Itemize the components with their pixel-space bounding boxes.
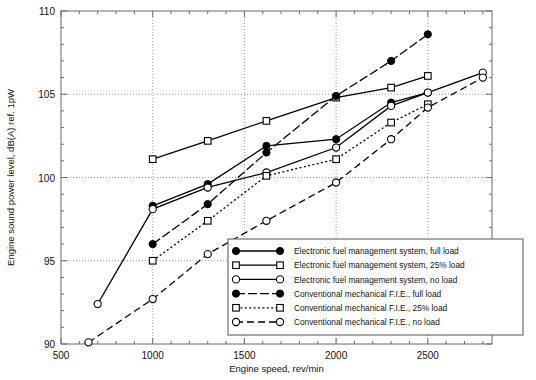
x-tick-label: 2500 (417, 350, 440, 361)
data-point (85, 339, 92, 346)
data-point (94, 300, 101, 307)
data-point (204, 138, 211, 145)
x-tick-label: 2000 (325, 350, 348, 361)
data-point (277, 305, 284, 312)
data-point (388, 136, 395, 143)
y-tick-label: 100 (38, 173, 55, 184)
data-point (333, 92, 340, 99)
data-point (388, 119, 395, 126)
y-axis-title: Engine sound power level, dB(A) ref. 1pW (5, 89, 16, 266)
x-axis-title: Engine speed, rev/min (229, 363, 324, 374)
legend-label: Conventional mechanical F.I.E., no load (294, 317, 440, 327)
data-point (204, 217, 211, 224)
data-point (263, 173, 270, 180)
y-tick-label: 110 (39, 6, 55, 17)
data-point (263, 118, 270, 125)
x-tick-label: 1500 (233, 350, 256, 361)
data-point (388, 102, 395, 109)
legend-label: Electronic fuel management system, no lo… (294, 275, 458, 285)
data-point (424, 89, 431, 96)
data-point (333, 156, 340, 163)
data-point (333, 144, 340, 151)
data-point (204, 201, 211, 208)
data-point (232, 247, 239, 254)
data-point (388, 57, 395, 64)
chart-figure: 50010001500200025009095100105110Engine s… (0, 0, 536, 380)
data-point (388, 84, 395, 91)
legend-label: Conventional mechanical F.I.E., full loa… (294, 289, 442, 299)
x-tick-label: 1000 (142, 350, 165, 361)
data-point (149, 295, 156, 302)
legend-label: Electronic fuel management system, full … (294, 246, 459, 256)
legend-label: Electronic fuel management system, 25% l… (294, 260, 465, 270)
data-point (425, 73, 432, 80)
y-tick-label: 90 (44, 339, 56, 350)
series-1 (149, 73, 431, 163)
data-point (263, 217, 270, 224)
legend: Electronic fuel management system, full … (228, 239, 523, 335)
data-point (232, 290, 239, 297)
data-point (204, 184, 211, 191)
data-point (276, 276, 283, 283)
data-point (149, 257, 156, 264)
y-tick-label: 95 (44, 256, 56, 267)
data-point (233, 262, 240, 269)
data-point (424, 104, 431, 111)
data-point (424, 31, 431, 38)
data-point (276, 290, 283, 297)
data-point (149, 241, 156, 248)
data-point (204, 250, 211, 257)
data-point (333, 136, 340, 143)
data-point (277, 262, 284, 269)
x-tick-label: 500 (53, 350, 70, 361)
series-line (153, 34, 428, 244)
series-line (153, 104, 428, 261)
data-point (263, 149, 270, 156)
data-point (232, 276, 239, 283)
data-point (233, 305, 240, 312)
data-point (276, 318, 283, 325)
series-line (153, 76, 428, 159)
data-point (333, 179, 340, 186)
chart-svg: 50010001500200025009095100105110Engine s… (0, 0, 536, 380)
data-point (479, 74, 486, 81)
data-point (149, 156, 156, 163)
legend-label: Conventional mechanical F.I.E., 25% load (294, 303, 448, 313)
data-point (276, 247, 283, 254)
data-point (149, 206, 156, 213)
data-point (263, 142, 270, 149)
data-point (232, 318, 239, 325)
y-tick-label: 105 (38, 89, 55, 100)
